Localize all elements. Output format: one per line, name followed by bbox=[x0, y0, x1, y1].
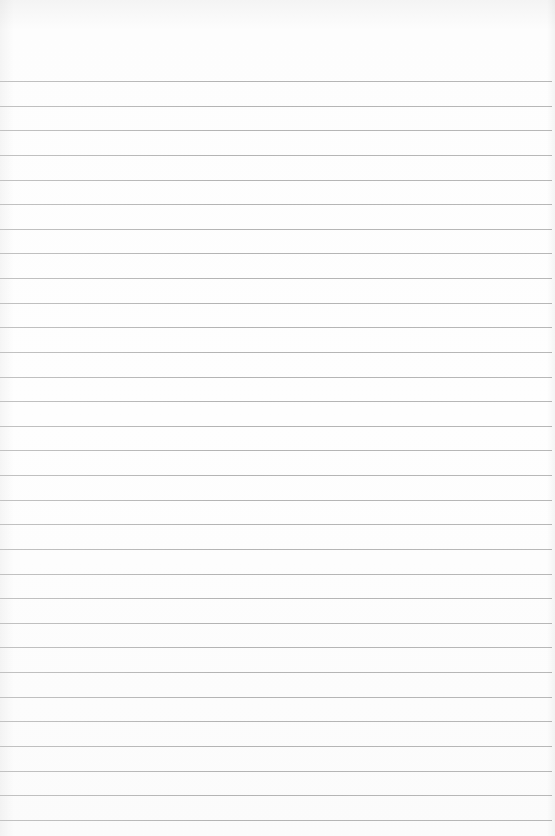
ruled-line bbox=[0, 278, 552, 279]
ruled-line bbox=[0, 426, 552, 427]
ruled-line bbox=[0, 549, 552, 550]
ruled-line bbox=[0, 130, 552, 131]
ruled-line bbox=[0, 598, 552, 599]
ruled-line bbox=[0, 721, 552, 722]
ruled-line bbox=[0, 524, 552, 525]
lined-paper bbox=[0, 0, 555, 836]
ruled-line bbox=[0, 771, 552, 772]
ruled-line bbox=[0, 475, 552, 476]
ruled-line bbox=[0, 746, 552, 747]
ruled-line bbox=[0, 820, 552, 821]
ruled-line bbox=[0, 574, 552, 575]
ruled-line bbox=[0, 672, 552, 673]
ruled-line bbox=[0, 401, 552, 402]
ruled-line bbox=[0, 180, 552, 181]
ruled-line bbox=[0, 795, 552, 796]
ruled-line bbox=[0, 155, 552, 156]
ruled-line bbox=[0, 106, 552, 107]
ruled-line bbox=[0, 303, 552, 304]
ruled-line bbox=[0, 377, 552, 378]
ruled-line bbox=[0, 697, 552, 698]
ruled-line bbox=[0, 352, 552, 353]
ruled-line bbox=[0, 229, 552, 230]
ruled-line bbox=[0, 647, 552, 648]
ruled-line bbox=[0, 253, 552, 254]
ruled-line bbox=[0, 327, 552, 328]
ruled-line bbox=[0, 623, 552, 624]
ruled-line bbox=[0, 81, 552, 82]
ruled-line bbox=[0, 450, 552, 451]
ruled-line bbox=[0, 500, 552, 501]
ruled-line bbox=[0, 204, 552, 205]
